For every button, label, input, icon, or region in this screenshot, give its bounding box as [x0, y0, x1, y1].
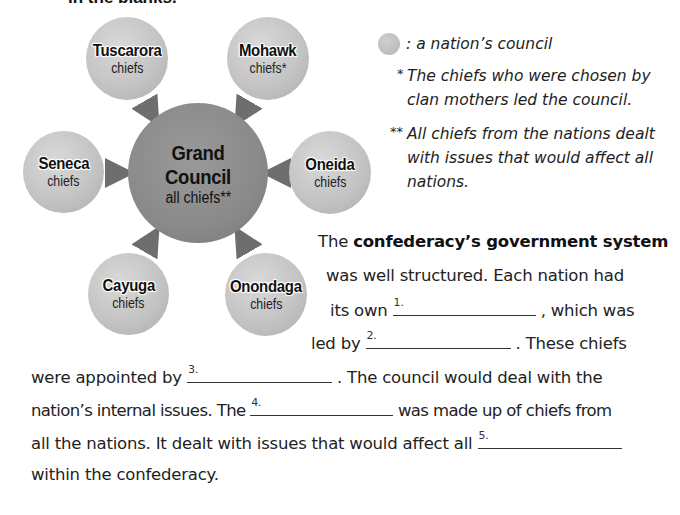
nation-sub: chiefs	[314, 174, 346, 191]
footnote-line: The chiefs who were chosen by	[407, 64, 651, 88]
text: was well structured. Each nation had	[326, 266, 624, 285]
nation-name: Cayuga	[102, 276, 154, 295]
nation-sub: chiefs	[47, 173, 79, 190]
mohawk-circle: Mohawk chiefs*	[227, 17, 309, 100]
bold-term: confederacy’s government system	[353, 232, 668, 251]
blank-number: 4.	[251, 396, 260, 409]
paragraph-line-8: within the confederacy.	[31, 465, 219, 484]
nation-sub: chiefs*	[250, 60, 287, 77]
nation-council-circle-icon	[378, 33, 400, 55]
nation-sub: chiefs	[250, 296, 282, 313]
footnote-2-mark: **	[390, 120, 403, 144]
footnote-line: clan mothers led the council.	[407, 88, 651, 112]
footnote-1-mark: *	[397, 62, 404, 86]
blank-number: 1.	[394, 296, 404, 309]
nation-name: Mohawk	[239, 41, 296, 60]
nation-name: Oneida	[305, 155, 354, 174]
text: were appointed by	[31, 368, 187, 387]
grand-council-sub: all chiefs**	[165, 189, 231, 206]
nation-sub: chiefs	[111, 60, 143, 77]
paragraph-line-4: led by 2. . These chiefs	[311, 332, 627, 353]
paragraph-line-2: was well structured. Each nation had	[326, 266, 624, 285]
text: its own	[330, 301, 393, 320]
legend: : a nation’s council	[378, 30, 678, 58]
blank-3-input[interactable]: 3.	[187, 366, 332, 383]
paragraph-line-3: its own 1. , which was	[330, 299, 634, 320]
nation-name: Seneca	[38, 154, 89, 173]
arrow-cayuga-icon	[145, 239, 152, 251]
paragraph-line-5: were appointed by 3. . The council would…	[31, 366, 603, 387]
paragraph-line-1: The confederacy’s government system	[318, 232, 668, 251]
footnote-2: ** All chiefs from the nations dealt wit…	[407, 122, 655, 194]
council-diagram: Grand Council all chiefs** Tuscarora chi…	[0, 0, 380, 345]
tuscarora-circle: Tuscarora chiefs	[86, 17, 168, 100]
blank-5-input[interactable]: 5.	[478, 432, 622, 449]
text: nation’s internal issues. The	[31, 401, 250, 420]
oneida-circle: Oneida chiefs	[289, 131, 371, 214]
text: . The council would deal with the	[332, 368, 603, 387]
legend-symbol-label: : a nation’s council	[406, 35, 552, 53]
paragraph-line-6: nation’s internal issues. The 4. was mad…	[31, 399, 611, 420]
blank-number: 3.	[188, 363, 198, 376]
blank-2-input[interactable]: 2.	[366, 332, 511, 349]
blank-4-input[interactable]: 4.	[250, 399, 393, 416]
footnote-line: nations.	[407, 170, 655, 194]
text: . These chiefs	[511, 334, 627, 353]
text: led by	[311, 334, 366, 353]
footnote-1: * The chiefs who were chosen by clan mot…	[407, 64, 651, 112]
grand-council-circle: Grand Council all chiefs**	[128, 103, 268, 243]
footnote-line: All chiefs from the nations dealt	[407, 122, 655, 146]
text: all the nations. It dealt with issues th…	[31, 434, 478, 453]
arrow-mohawk-icon	[242, 102, 249, 114]
onondaga-circle: Onondaga chiefs	[225, 253, 307, 336]
nation-name: Onondaga	[230, 277, 302, 296]
blank-number: 5.	[479, 429, 489, 442]
blank-number: 2.	[367, 329, 377, 342]
paragraph-line-7: all the nations. It dealt with issues th…	[31, 432, 622, 453]
text: , which was	[536, 301, 635, 320]
footnote-line: with issues that would affect all	[407, 146, 655, 170]
text: was made up of chiefs from	[393, 401, 611, 420]
cayuga-circle: Cayuga chiefs	[88, 253, 169, 335]
blank-1-input[interactable]: 1.	[393, 299, 536, 316]
legend-symbol-row: : a nation’s council	[378, 30, 678, 58]
arrow-onondaga-icon	[242, 239, 249, 251]
nation-sub: chiefs	[112, 295, 144, 312]
text: within the confederacy.	[31, 465, 219, 484]
seneca-circle: Seneca chiefs	[23, 131, 104, 213]
grand-council-label: Grand Council	[136, 141, 259, 189]
text: The	[318, 232, 353, 251]
arrow-tuscarora-icon	[145, 102, 152, 114]
nation-name: Tuscarora	[93, 41, 162, 60]
